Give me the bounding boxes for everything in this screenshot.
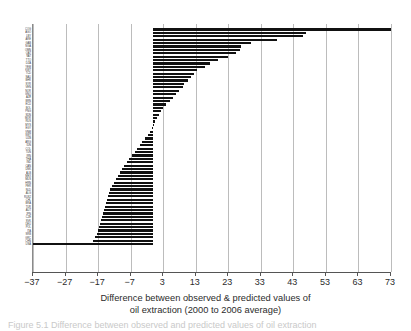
bar [110,188,153,190]
x-axis-caption-line-2: oil extraction (2000 to 2006 average) [0,304,411,316]
bar [122,168,154,170]
bar [153,103,166,105]
bar [135,151,154,153]
bar [98,229,153,231]
bar [118,175,154,177]
x-axis-tick [357,272,358,276]
bar [153,76,190,78]
gridline [391,24,392,272]
bar [142,141,153,143]
bar [106,202,154,204]
bar [101,219,153,221]
bar [140,144,154,146]
plot-area [32,24,391,273]
x-axis-tick [97,272,98,276]
bar [153,79,187,81]
bar [153,120,155,122]
x-axis-tick [65,272,66,276]
bar [153,117,156,119]
bar [153,45,241,47]
bar [116,178,154,180]
y-axis-category-labels: COGAGOLBYAREGABNGAOMNQATVATTTODZAYEMKWTT… [14,28,31,272]
bar [95,236,153,238]
bar [93,240,154,242]
bar [127,161,154,163]
x-axis-tick [130,272,131,276]
bar [108,195,154,197]
figure-caption: Figure 5.1 Difference between observed a… [8,320,411,331]
bar [153,86,182,88]
bar [112,185,154,187]
bar [153,73,194,75]
bar [102,216,153,218]
x-axis-tick-label: 73 [370,277,410,287]
bar [124,165,153,167]
bar [114,182,154,184]
bar [153,32,306,34]
bar [153,110,160,112]
bar [145,137,153,139]
bar [33,243,153,245]
x-axis-tick [325,272,326,276]
y-axis-label: USA [14,243,31,247]
bar [153,100,169,102]
x-axis-caption: Difference between observed & predicted … [0,292,411,316]
x-axis-tick [292,272,293,276]
figure-oil-extraction-difference: COGAGOLBYAREGABNGAOMNQATVATTTODZAYEMKWTT… [0,0,411,331]
bar [150,131,153,133]
x-axis-tick [227,272,228,276]
bar [107,199,154,201]
bar [132,154,153,156]
bar [153,66,205,68]
bar [153,62,210,64]
bar [104,209,153,211]
x-axis-tick [390,272,391,276]
bar [153,69,197,71]
bar [137,148,153,150]
x-axis-tick [195,272,196,276]
bar [129,158,153,160]
bar [120,171,154,173]
bar [105,206,153,208]
bar [153,42,251,44]
bar [153,28,391,30]
bar [153,39,277,41]
bar [148,134,154,136]
bar-series [33,28,391,246]
bar [97,233,154,235]
bar [153,52,236,54]
bar [153,97,173,99]
x-axis-tick [162,272,163,276]
bar [153,114,158,116]
bar-row [33,243,391,246]
bar [153,124,154,126]
x-axis-tick [32,272,33,276]
x-axis-caption-line-1: Difference between observed & predicted … [0,292,411,304]
bar [100,223,153,225]
bar [153,90,179,92]
bar [153,83,184,85]
bar [103,212,153,214]
bar [153,35,303,37]
bar [153,49,239,51]
bar [99,226,153,228]
x-axis-tick [260,272,261,276]
bar [153,59,218,61]
bar [153,107,163,109]
bar [153,56,228,58]
bar [153,93,176,95]
bar [109,192,153,194]
bar [152,127,153,129]
